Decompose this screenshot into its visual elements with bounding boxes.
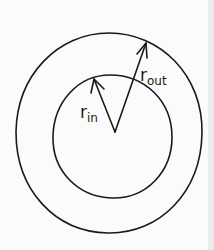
inner-circle xyxy=(53,75,172,198)
inner-radius-label: rin xyxy=(80,104,98,124)
outer-radius-label: rout xyxy=(140,67,167,87)
annulus-diagram xyxy=(0,0,214,250)
outer-circle xyxy=(16,33,202,233)
outer-radius-arrow xyxy=(115,43,146,132)
